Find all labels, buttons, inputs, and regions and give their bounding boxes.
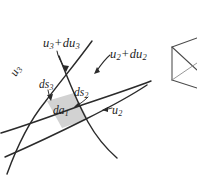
label-u2-plus-du2-operator: + xyxy=(122,47,129,61)
label-u3-plus-du3-operator: + xyxy=(55,36,62,50)
wedge-top-edge xyxy=(172,38,197,47)
label-ds2-base: ds xyxy=(74,86,84,98)
wedge-diagonal-lower xyxy=(172,63,197,80)
wedge-figure xyxy=(172,38,197,88)
leader-arrowhead-u2 xyxy=(102,107,108,112)
label-da1-base: da xyxy=(53,104,65,116)
label-ds3: ds3 xyxy=(39,79,53,92)
label-ds2: ds2 xyxy=(74,87,88,100)
label-u3-plus-du3-second: du xyxy=(63,36,76,50)
label-u3-plus-du3-base-sub: 3 xyxy=(50,41,54,51)
label-u2-sub: 2 xyxy=(118,109,122,118)
label-u2: u2 xyxy=(112,104,122,118)
label-u2-plus-du2-second-sub: 2 xyxy=(143,52,147,62)
label-da1-sub: 1 xyxy=(65,109,69,118)
label-da1: da1 xyxy=(53,105,69,118)
wedge-diagonal-upper xyxy=(172,47,197,70)
label-u3-plus-du3: u3+du3 xyxy=(43,37,80,51)
label-ds3-sub: 3 xyxy=(49,83,53,92)
diagram-vector-layer xyxy=(0,0,197,179)
label-u3-plus-du3-base: u xyxy=(43,36,49,50)
diagram-canvas: u3+du3 u2+du2 u3 u2 ds3 ds2 da1 xyxy=(0,0,197,179)
label-ds2-sub: 2 xyxy=(84,91,88,100)
label-u2-plus-du2-base-sub: 2 xyxy=(117,52,121,62)
wedge-bottom-edge xyxy=(172,80,197,88)
leader-arrowhead-u3-plus-du3 xyxy=(62,65,69,72)
label-u2-plus-du2-base: u xyxy=(110,47,116,61)
label-u3-plus-du3-second-sub: 3 xyxy=(76,41,80,51)
label-u2-plus-du2: u2+du2 xyxy=(110,48,147,62)
label-u2-plus-du2-second: du xyxy=(130,47,143,61)
label-ds3-base: ds xyxy=(39,78,49,90)
